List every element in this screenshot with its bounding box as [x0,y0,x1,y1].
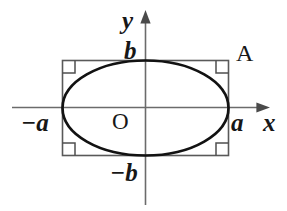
figure-canvas [0,0,287,211]
x-axis-label: x [263,110,276,135]
y-tick-label-negative-b: −b [110,160,138,185]
x-tick-label-negative-a: −a [21,110,49,135]
right-angle-marker-bottom-left [63,143,76,156]
origin-label: O [112,110,129,133]
x-tick-label-a: a [231,110,244,135]
right-angle-marker-bottom-right [216,143,229,156]
right-angle-marker-top-left [63,61,76,74]
ellipse-figure: y x b −b a −a O A [0,0,287,211]
y-tick-label-b: b [124,38,137,63]
corner-vertex-label-a: A [236,41,253,65]
y-axis-label: y [122,8,133,33]
right-angle-marker-top-right [216,61,229,74]
